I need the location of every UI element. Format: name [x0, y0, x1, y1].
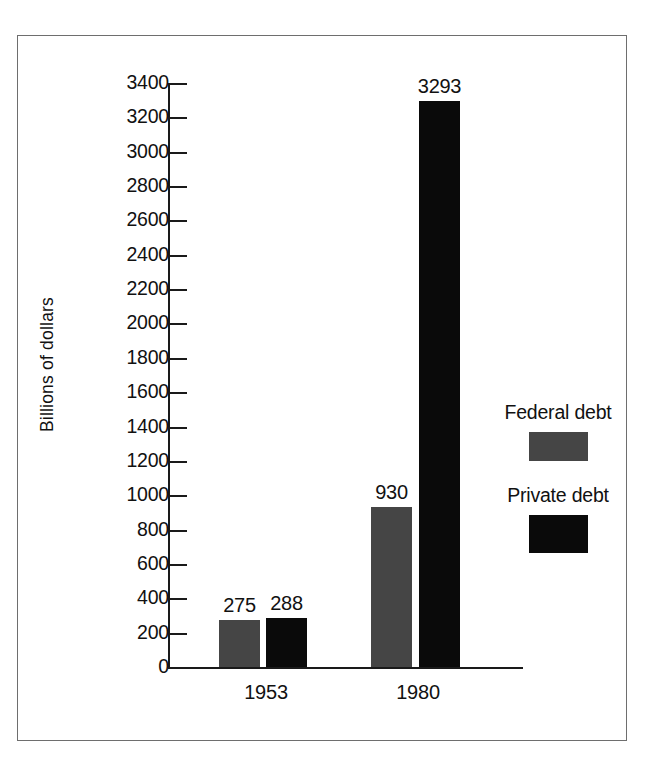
x-axis-group-label: 1980	[358, 681, 478, 704]
y-axis-tick-label: 1000	[39, 485, 169, 505]
y-axis-tick-label: 1400	[39, 417, 169, 437]
y-axis-tick-mark	[168, 117, 187, 119]
bar	[371, 507, 412, 667]
y-axis-tick: 3200	[18, 117, 187, 119]
y-axis-line	[168, 83, 170, 669]
legend-label-federal-debt: Federal debt	[488, 401, 628, 424]
y-axis-tick: 1000	[18, 495, 187, 497]
y-axis-tick-mark	[168, 461, 187, 463]
bar	[419, 101, 460, 667]
y-axis-tick: 400	[18, 598, 187, 600]
y-axis-tick-mark	[168, 427, 187, 429]
y-axis-tick-mark	[168, 186, 187, 188]
y-axis-tick-mark	[168, 392, 187, 394]
y-axis-tick-label: 200	[39, 623, 169, 643]
x-axis-line	[168, 667, 523, 669]
y-axis-tick-mark	[168, 289, 187, 291]
y-axis-tick-label: 2600	[39, 210, 169, 230]
y-axis-tick-label: 3400	[39, 73, 169, 93]
y-axis-tick-mark	[168, 598, 187, 600]
bar-value-label: 930	[359, 482, 424, 502]
y-axis-tick-label: 2800	[39, 176, 169, 196]
y-axis-tick-label: 2000	[39, 313, 169, 333]
y-axis-tick-mark	[168, 152, 187, 154]
y-axis-tick-mark	[168, 667, 187, 669]
y-axis-tick-label: 2200	[39, 279, 169, 299]
y-axis-tick: 1600	[18, 392, 187, 394]
y-axis-tick-mark	[168, 323, 187, 325]
y-axis-tick-mark	[168, 495, 187, 497]
y-axis-tick-mark	[168, 83, 187, 85]
legend-swatch-private-debt	[529, 515, 588, 553]
y-axis-tick-label: 400	[39, 588, 169, 608]
y-axis-tick-mark	[168, 633, 187, 635]
y-axis-tick: 3000	[18, 152, 187, 154]
chart-page: Billions of dollars 34003200300028002600…	[0, 0, 646, 758]
y-axis-tick-mark	[168, 564, 187, 566]
y-axis-tick: 2200	[18, 289, 187, 291]
y-axis-tick: 2400	[18, 255, 187, 257]
legend-entry-private-debt: Private debt	[488, 484, 628, 553]
y-axis-tick-mark	[168, 530, 187, 532]
bar-value-label: 3293	[407, 76, 472, 96]
bar	[266, 618, 307, 667]
y-axis-tick: 3400	[18, 83, 187, 85]
y-axis-tick: 2000	[18, 323, 187, 325]
y-axis-tick-label: 0	[39, 657, 169, 677]
y-axis-tick-mark	[168, 255, 187, 257]
y-axis-tick: 200	[18, 633, 187, 635]
y-axis-tick-label: 1800	[39, 348, 169, 368]
y-axis-tick: 800	[18, 530, 187, 532]
y-axis-tick-label: 3200	[39, 107, 169, 127]
y-axis-tick: 2600	[18, 220, 187, 222]
y-axis-tick-mark	[168, 220, 187, 222]
y-axis-tick-mark	[168, 358, 187, 360]
legend-entry-federal-debt: Federal debt	[488, 401, 628, 461]
y-axis-tick-label: 3000	[39, 142, 169, 162]
bar	[219, 620, 260, 667]
plot-area: Billions of dollars 34003200300028002600…	[18, 36, 628, 742]
y-axis-tick: 1200	[18, 461, 187, 463]
figure-frame: Billions of dollars 34003200300028002600…	[17, 35, 627, 741]
legend: Federal debt Private debt	[488, 401, 628, 553]
legend-swatch-federal-debt	[529, 432, 588, 461]
y-axis-tick-label: 2400	[39, 245, 169, 265]
y-axis-tick-label: 1600	[39, 382, 169, 402]
y-axis-tick: 1400	[18, 427, 187, 429]
y-axis-tick-label: 800	[39, 520, 169, 540]
bar-value-label: 288	[254, 593, 319, 613]
y-axis-tick: 600	[18, 564, 187, 566]
legend-label-private-debt: Private debt	[488, 484, 628, 507]
y-axis-tick: 0	[18, 667, 187, 669]
y-axis-tick: 1800	[18, 358, 187, 360]
x-axis-group-label: 1953	[206, 681, 326, 704]
y-axis-tick-label: 600	[39, 554, 169, 574]
y-axis-tick: 2800	[18, 186, 187, 188]
y-axis-tick-label: 1200	[39, 451, 169, 471]
